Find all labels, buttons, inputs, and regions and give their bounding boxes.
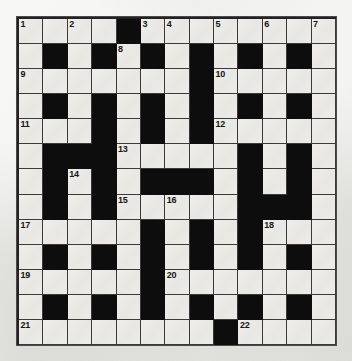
grid-letter-cell[interactable] <box>68 44 92 69</box>
grid-letter-cell[interactable] <box>43 119 67 144</box>
grid-letter-cell[interactable] <box>312 44 336 69</box>
grid-letter-cell[interactable] <box>117 320 141 345</box>
grid-letter-cell[interactable]: 18 <box>263 220 287 245</box>
grid-letter-cell[interactable] <box>214 144 238 169</box>
grid-letter-cell[interactable] <box>117 94 141 119</box>
grid-letter-cell[interactable]: 20 <box>165 270 189 295</box>
grid-letter-cell[interactable] <box>141 320 165 345</box>
grid-letter-cell[interactable] <box>117 119 141 144</box>
grid-letter-cell[interactable]: 12 <box>214 119 238 144</box>
grid-letter-cell[interactable] <box>263 119 287 144</box>
grid-letter-cell[interactable] <box>312 295 336 320</box>
grid-letter-cell[interactable] <box>43 320 67 345</box>
grid-letter-cell[interactable] <box>312 270 336 295</box>
grid-letter-cell[interactable] <box>68 119 92 144</box>
grid-letter-cell[interactable] <box>92 69 116 94</box>
grid-letter-cell[interactable] <box>165 320 189 345</box>
grid-letter-cell[interactable] <box>214 295 238 320</box>
grid-letter-cell[interactable] <box>312 94 336 119</box>
grid-letter-cell[interactable] <box>214 169 238 194</box>
grid-letter-cell[interactable] <box>141 195 165 220</box>
grid-letter-cell[interactable] <box>68 320 92 345</box>
grid-letter-cell[interactable] <box>287 119 311 144</box>
grid-letter-cell[interactable]: 8 <box>117 44 141 69</box>
grid-letter-cell[interactable] <box>214 195 238 220</box>
grid-letter-cell[interactable] <box>214 270 238 295</box>
grid-letter-cell[interactable] <box>214 245 238 270</box>
grid-letter-cell[interactable] <box>238 69 262 94</box>
grid-letter-cell[interactable] <box>238 119 262 144</box>
grid-letter-cell[interactable] <box>68 295 92 320</box>
crossword-grid[interactable]: 12345678910111213141516171819202122 <box>17 17 336 345</box>
grid-letter-cell[interactable] <box>19 245 43 270</box>
grid-letter-cell[interactable] <box>141 69 165 94</box>
grid-letter-cell[interactable] <box>141 144 165 169</box>
grid-letter-cell[interactable] <box>214 220 238 245</box>
grid-letter-cell[interactable] <box>92 220 116 245</box>
grid-letter-cell[interactable] <box>19 169 43 194</box>
grid-letter-cell[interactable] <box>43 19 67 44</box>
grid-letter-cell[interactable] <box>165 69 189 94</box>
grid-letter-cell[interactable] <box>287 19 311 44</box>
grid-letter-cell[interactable] <box>263 320 287 345</box>
grid-letter-cell[interactable] <box>287 270 311 295</box>
grid-letter-cell[interactable]: 5 <box>214 19 238 44</box>
grid-letter-cell[interactable]: 13 <box>117 144 141 169</box>
grid-letter-cell[interactable] <box>165 245 189 270</box>
grid-letter-cell[interactable] <box>43 69 67 94</box>
grid-letter-cell[interactable] <box>165 119 189 144</box>
grid-letter-cell[interactable] <box>68 245 92 270</box>
grid-letter-cell[interactable] <box>19 144 43 169</box>
grid-letter-cell[interactable] <box>190 144 214 169</box>
grid-letter-cell[interactable] <box>263 169 287 194</box>
grid-letter-cell[interactable] <box>238 19 262 44</box>
grid-letter-cell[interactable] <box>165 44 189 69</box>
grid-letter-cell[interactable]: 22 <box>238 320 262 345</box>
grid-letter-cell[interactable] <box>117 69 141 94</box>
grid-letter-cell[interactable] <box>68 270 92 295</box>
grid-letter-cell[interactable] <box>92 270 116 295</box>
grid-letter-cell[interactable] <box>165 295 189 320</box>
grid-letter-cell[interactable] <box>263 94 287 119</box>
grid-letter-cell[interactable] <box>117 220 141 245</box>
grid-letter-cell[interactable] <box>19 44 43 69</box>
grid-letter-cell[interactable] <box>263 270 287 295</box>
grid-letter-cell[interactable] <box>312 119 336 144</box>
grid-letter-cell[interactable]: 14 <box>68 169 92 194</box>
grid-letter-cell[interactable] <box>214 44 238 69</box>
grid-letter-cell[interactable]: 9 <box>19 69 43 94</box>
grid-letter-cell[interactable] <box>190 270 214 295</box>
grid-letter-cell[interactable]: 7 <box>312 19 336 44</box>
grid-letter-cell[interactable] <box>287 69 311 94</box>
grid-letter-cell[interactable] <box>117 169 141 194</box>
grid-letter-cell[interactable] <box>92 320 116 345</box>
grid-letter-cell[interactable]: 2 <box>68 19 92 44</box>
grid-letter-cell[interactable] <box>117 295 141 320</box>
grid-letter-cell[interactable] <box>312 195 336 220</box>
grid-letter-cell[interactable]: 16 <box>165 195 189 220</box>
grid-letter-cell[interactable] <box>165 94 189 119</box>
grid-letter-cell[interactable]: 6 <box>263 19 287 44</box>
grid-letter-cell[interactable]: 4 <box>165 19 189 44</box>
grid-letter-cell[interactable]: 3 <box>141 19 165 44</box>
grid-letter-cell[interactable] <box>312 69 336 94</box>
grid-letter-cell[interactable] <box>68 195 92 220</box>
grid-letter-cell[interactable]: 11 <box>19 119 43 144</box>
grid-letter-cell[interactable] <box>287 320 311 345</box>
grid-letter-cell[interactable] <box>165 220 189 245</box>
grid-letter-cell[interactable] <box>263 44 287 69</box>
grid-letter-cell[interactable] <box>19 195 43 220</box>
grid-letter-cell[interactable] <box>214 94 238 119</box>
grid-letter-cell[interactable] <box>190 320 214 345</box>
grid-letter-cell[interactable] <box>68 220 92 245</box>
grid-letter-cell[interactable] <box>68 94 92 119</box>
grid-letter-cell[interactable] <box>190 19 214 44</box>
grid-letter-cell[interactable]: 21 <box>19 320 43 345</box>
grid-letter-cell[interactable] <box>117 270 141 295</box>
grid-letter-cell[interactable] <box>190 195 214 220</box>
grid-letter-cell[interactable] <box>263 69 287 94</box>
grid-letter-cell[interactable] <box>43 270 67 295</box>
grid-letter-cell[interactable] <box>312 320 336 345</box>
grid-letter-cell[interactable] <box>19 295 43 320</box>
grid-letter-cell[interactable] <box>92 19 116 44</box>
